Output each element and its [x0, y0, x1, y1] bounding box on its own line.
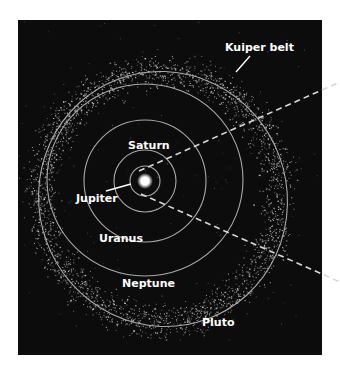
- label-saturn: Saturn: [128, 139, 170, 152]
- space-panel: [18, 20, 322, 355]
- label-kuiper-belt: Kuiper belt: [225, 41, 294, 54]
- label-neptune: Neptune: [122, 277, 175, 290]
- sun-icon: [137, 173, 153, 189]
- label-jupiter: Jupiter: [75, 192, 118, 205]
- label-uranus: Uranus: [99, 232, 143, 245]
- label-pluto: Pluto: [202, 316, 235, 329]
- solar-system-diagram: Kuiper belt Saturn Jupiter Uranus Neptun…: [0, 0, 340, 380]
